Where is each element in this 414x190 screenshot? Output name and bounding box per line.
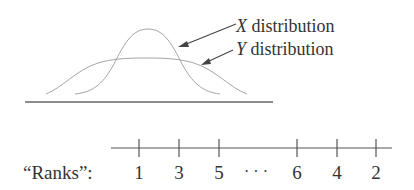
ranks-label: “Ranks”: xyxy=(23,162,93,183)
x-distribution-label: X distribution xyxy=(235,16,335,36)
rank-ellipsis: · · · xyxy=(244,163,268,180)
ranks-number-line: “Ranks”: 1 3 5 · · · 6 4 2 xyxy=(23,139,392,183)
rank-value: 4 xyxy=(332,162,342,183)
rank-diagram: X distribution Y distribution “Ranks”: 1… xyxy=(0,0,414,190)
rank-value: 5 xyxy=(214,162,224,183)
rank-value: 6 xyxy=(292,162,302,183)
x-distribution-arrow xyxy=(178,24,236,47)
rank-value: 1 xyxy=(134,162,144,183)
distribution-plot: X distribution Y distribution xyxy=(25,16,335,102)
y-distribution-label: Y distribution xyxy=(236,39,334,59)
y-distribution-arrow xyxy=(201,50,233,65)
y-distribution-curve xyxy=(46,58,247,94)
rank-value: 2 xyxy=(371,162,381,183)
rank-value: 3 xyxy=(174,162,184,183)
